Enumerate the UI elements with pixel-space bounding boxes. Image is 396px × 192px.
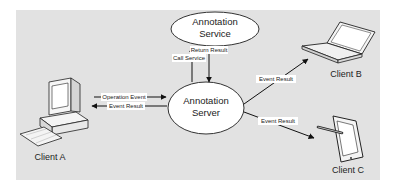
annotation-service-label-line1: Annotation — [192, 16, 237, 27]
client-a-desktop-icon — [20, 78, 88, 146]
edge-return-result: Return Result — [190, 46, 228, 82]
event-result-c-label: Event Result — [261, 118, 295, 124]
operation-event-label: Operation Event — [102, 94, 146, 100]
call-service-label: Call Service — [173, 55, 206, 61]
annotation-server-label-line1: Annotation — [183, 95, 228, 106]
client-a-label: Client A — [34, 152, 65, 162]
annotation-service-label-line2: Service — [199, 28, 231, 39]
client-b-laptop-icon — [302, 22, 375, 63]
return-result-label: Return Result — [191, 47, 228, 53]
edge-event-result-c: Event Result — [244, 112, 314, 138]
client-c-tablet-icon — [318, 116, 363, 162]
edge-event-result-a: Event Result — [92, 102, 167, 110]
edge-event-result-b: Event Result — [244, 59, 308, 104]
event-result-a-label: Event Result — [109, 103, 143, 109]
annotation-server-label-line2: Server — [192, 107, 220, 118]
annotation-server-node: Annotation Server — [168, 82, 244, 134]
client-b-label: Client B — [330, 69, 362, 79]
edge-operation-event: Operation Event — [94, 93, 166, 101]
event-result-b-label: Event Result — [259, 76, 293, 82]
client-c-label: Client C — [332, 165, 365, 175]
architecture-diagram: Annotation Service Annotation Server Cal… — [0, 0, 396, 192]
annotation-service-node: Annotation Service — [171, 12, 259, 46]
